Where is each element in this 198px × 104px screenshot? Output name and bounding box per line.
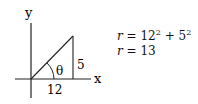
eq2-rhs: 13 (140, 44, 155, 58)
eq1-term1: 12 (140, 29, 155, 43)
eq1-lhs: r (117, 29, 123, 43)
angle-label: θ (56, 64, 63, 78)
eq1-exp1: 2 (156, 28, 161, 37)
equation-2: r = 13 (117, 44, 156, 58)
angle-arc (47, 63, 54, 79)
y-axis-label: y (24, 5, 33, 20)
eq1-exp2: 2 (186, 28, 191, 37)
x-axis-label: x (94, 71, 102, 86)
adjacent-side-label: 12 (47, 83, 62, 97)
triangle-diagram: y x θ 5 12 (0, 0, 198, 104)
eq1-op: + (165, 29, 175, 43)
hypotenuse (31, 36, 73, 79)
equation-1: r = 122 + 52 (117, 29, 191, 43)
eq2-lhs: r (117, 44, 123, 58)
opposite-side-label: 5 (77, 58, 85, 72)
